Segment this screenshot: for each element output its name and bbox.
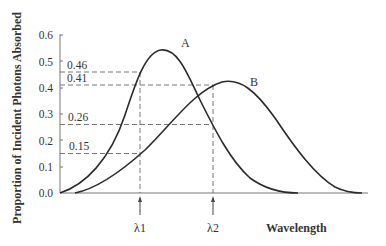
y-tick-5: 0.5 — [39, 56, 54, 68]
y-tick-1: 0.1 — [39, 161, 54, 173]
lambda1-label: λ1 — [134, 221, 146, 235]
annotation-0-41: 0.41 — [67, 72, 87, 84]
curve-b-label: B — [250, 75, 258, 89]
y-tick-4: 0.4 — [39, 82, 54, 94]
y-tick-6: 0.6 — [39, 29, 54, 41]
y-tick-labels: 0.0 0.1 0.2 0.3 0.4 0.5 0.6 — [39, 29, 54, 199]
y-tick-2: 0.2 — [39, 135, 54, 147]
y-axis-title: Proportion of Incident Photons Absorbed — [10, 12, 24, 224]
annotation-0-26: 0.26 — [68, 111, 88, 123]
curve-a-label: A — [181, 36, 190, 50]
curve-a — [60, 50, 298, 193]
curve-b — [75, 81, 362, 193]
y-tick-3: 0.3 — [39, 108, 54, 120]
lambda2-label: λ2 — [207, 221, 219, 235]
annotation-0-46: 0.46 — [67, 59, 87, 71]
annotation-0-15: 0.15 — [69, 140, 89, 152]
x-axis-title: Wavelength — [266, 221, 327, 235]
axes — [60, 35, 368, 194]
lambda-arrows — [138, 196, 215, 215]
dashed-guides — [60, 72, 213, 193]
absorption-chart: Proportion of Incident Photons Absorbed … — [0, 0, 386, 246]
y-tick-0: 0.0 — [39, 187, 54, 199]
